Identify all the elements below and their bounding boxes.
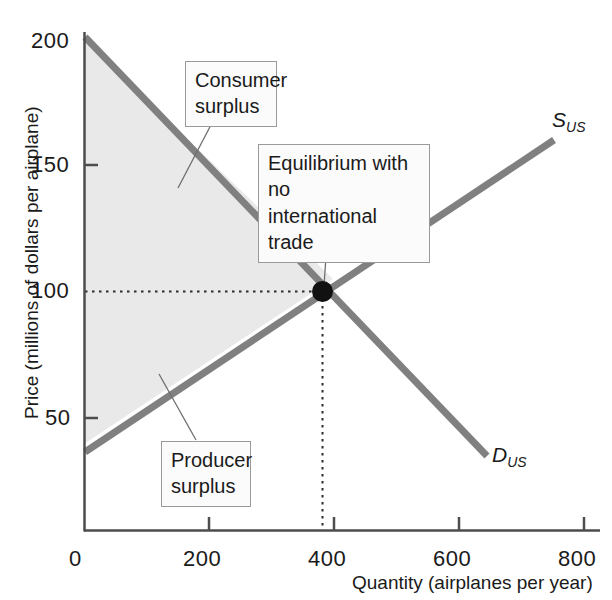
consumer-surplus-callout: Consumer surplus bbox=[185, 61, 277, 127]
x-tick-label-400: 400 bbox=[308, 546, 346, 572]
producer-surplus-region bbox=[84, 279, 333, 444]
x-tick-label-800: 800 bbox=[558, 546, 596, 572]
supply-curve-label-letter: S bbox=[552, 108, 566, 131]
supply-curve-label: SUS bbox=[552, 108, 585, 135]
demand-curve-label-letter: D bbox=[492, 443, 507, 466]
chart-canvas bbox=[0, 0, 612, 600]
x-tick-label-0: 0 bbox=[69, 546, 82, 572]
x-tick-label-600: 600 bbox=[433, 546, 471, 572]
y-tick-label-50: 50 bbox=[45, 405, 70, 431]
equilibrium-point-marker bbox=[312, 281, 333, 302]
y-tick-label-200: 200 bbox=[31, 28, 69, 54]
demand-curve-label-subscript: US bbox=[507, 454, 526, 470]
x-tick-label-200: 200 bbox=[183, 546, 221, 572]
y-axis-title: Price (millions of dollars per airplane) bbox=[21, 139, 43, 419]
x-axis-title: Quantity (airplanes per year) bbox=[352, 572, 593, 594]
producer-surplus-callout: Producer surplus bbox=[161, 441, 251, 507]
supply-curve-label-subscript: US bbox=[566, 119, 585, 135]
demand-curve-label: DUS bbox=[492, 443, 527, 470]
economics-supply-demand-figure: 200 150 100 50 0 200 400 600 800 Price (… bbox=[0, 0, 612, 600]
equilibrium-callout: Equilibrium with no international trade bbox=[258, 144, 430, 263]
